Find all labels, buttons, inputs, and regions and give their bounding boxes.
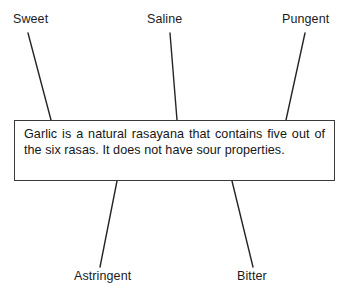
callout-label-bitter: Bitter [237, 269, 267, 283]
leader-line-astringent [100, 181, 117, 267]
leader-line-bitter [232, 181, 253, 267]
callout-label-pungent: Pungent [282, 12, 329, 26]
leader-line-sweet [28, 33, 51, 120]
callout-label-astringent: Astringent [74, 269, 131, 283]
statement-text: Garlic is a natural rasayana that contai… [24, 126, 325, 159]
leader-line-saline [170, 33, 177, 120]
leader-line-pungent [286, 33, 305, 120]
callout-label-saline: Saline [147, 12, 182, 26]
callout-label-sweet: Sweet [13, 12, 48, 26]
statement-box: Garlic is a natural rasayana that contai… [14, 120, 335, 181]
rasas-callout-diagram: Sweet Saline Pungent Garlic is a natural… [0, 0, 356, 302]
